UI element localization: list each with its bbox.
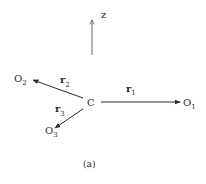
z-axis: z	[92, 9, 106, 55]
o1-label: O1	[183, 97, 196, 111]
vector-r3: r3 O3	[45, 103, 83, 139]
z-axis-label: z	[101, 9, 106, 20]
diagram-canvas: z C r1 O1 r2 O2 r3 O3 (a)	[0, 0, 206, 184]
r1-label: r1	[126, 83, 136, 97]
vector-r2: r2 O2	[14, 73, 83, 98]
figure-caption: (a)	[83, 159, 95, 169]
o2-label: O2	[14, 73, 27, 87]
vector-diagram: z C r1 O1 r2 O2 r3 O3 (a)	[0, 0, 206, 184]
r2-label: r2	[60, 74, 70, 89]
r3-label: r3	[55, 103, 65, 118]
center-label: C	[87, 97, 95, 108]
r2-arrow	[33, 80, 83, 98]
vector-r1: r1 O1	[101, 83, 196, 111]
